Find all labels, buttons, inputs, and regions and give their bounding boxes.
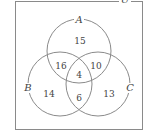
set-a-label: A	[74, 14, 82, 25]
region-b-only: 14	[43, 89, 55, 99]
region-a-and-b: 16	[55, 61, 67, 71]
region-a-only: 15	[74, 36, 86, 46]
venn-diagram: U A B C 15 16 10 4 14 6 13	[0, 0, 151, 137]
set-c-label: C	[126, 82, 134, 93]
set-b-label: B	[23, 82, 31, 93]
region-c-only: 13	[103, 89, 115, 99]
universe-label: U	[121, 0, 130, 5]
region-a-b-c: 4	[76, 70, 82, 80]
region-a-and-c: 10	[90, 61, 102, 71]
region-b-and-c: 6	[76, 93, 82, 103]
